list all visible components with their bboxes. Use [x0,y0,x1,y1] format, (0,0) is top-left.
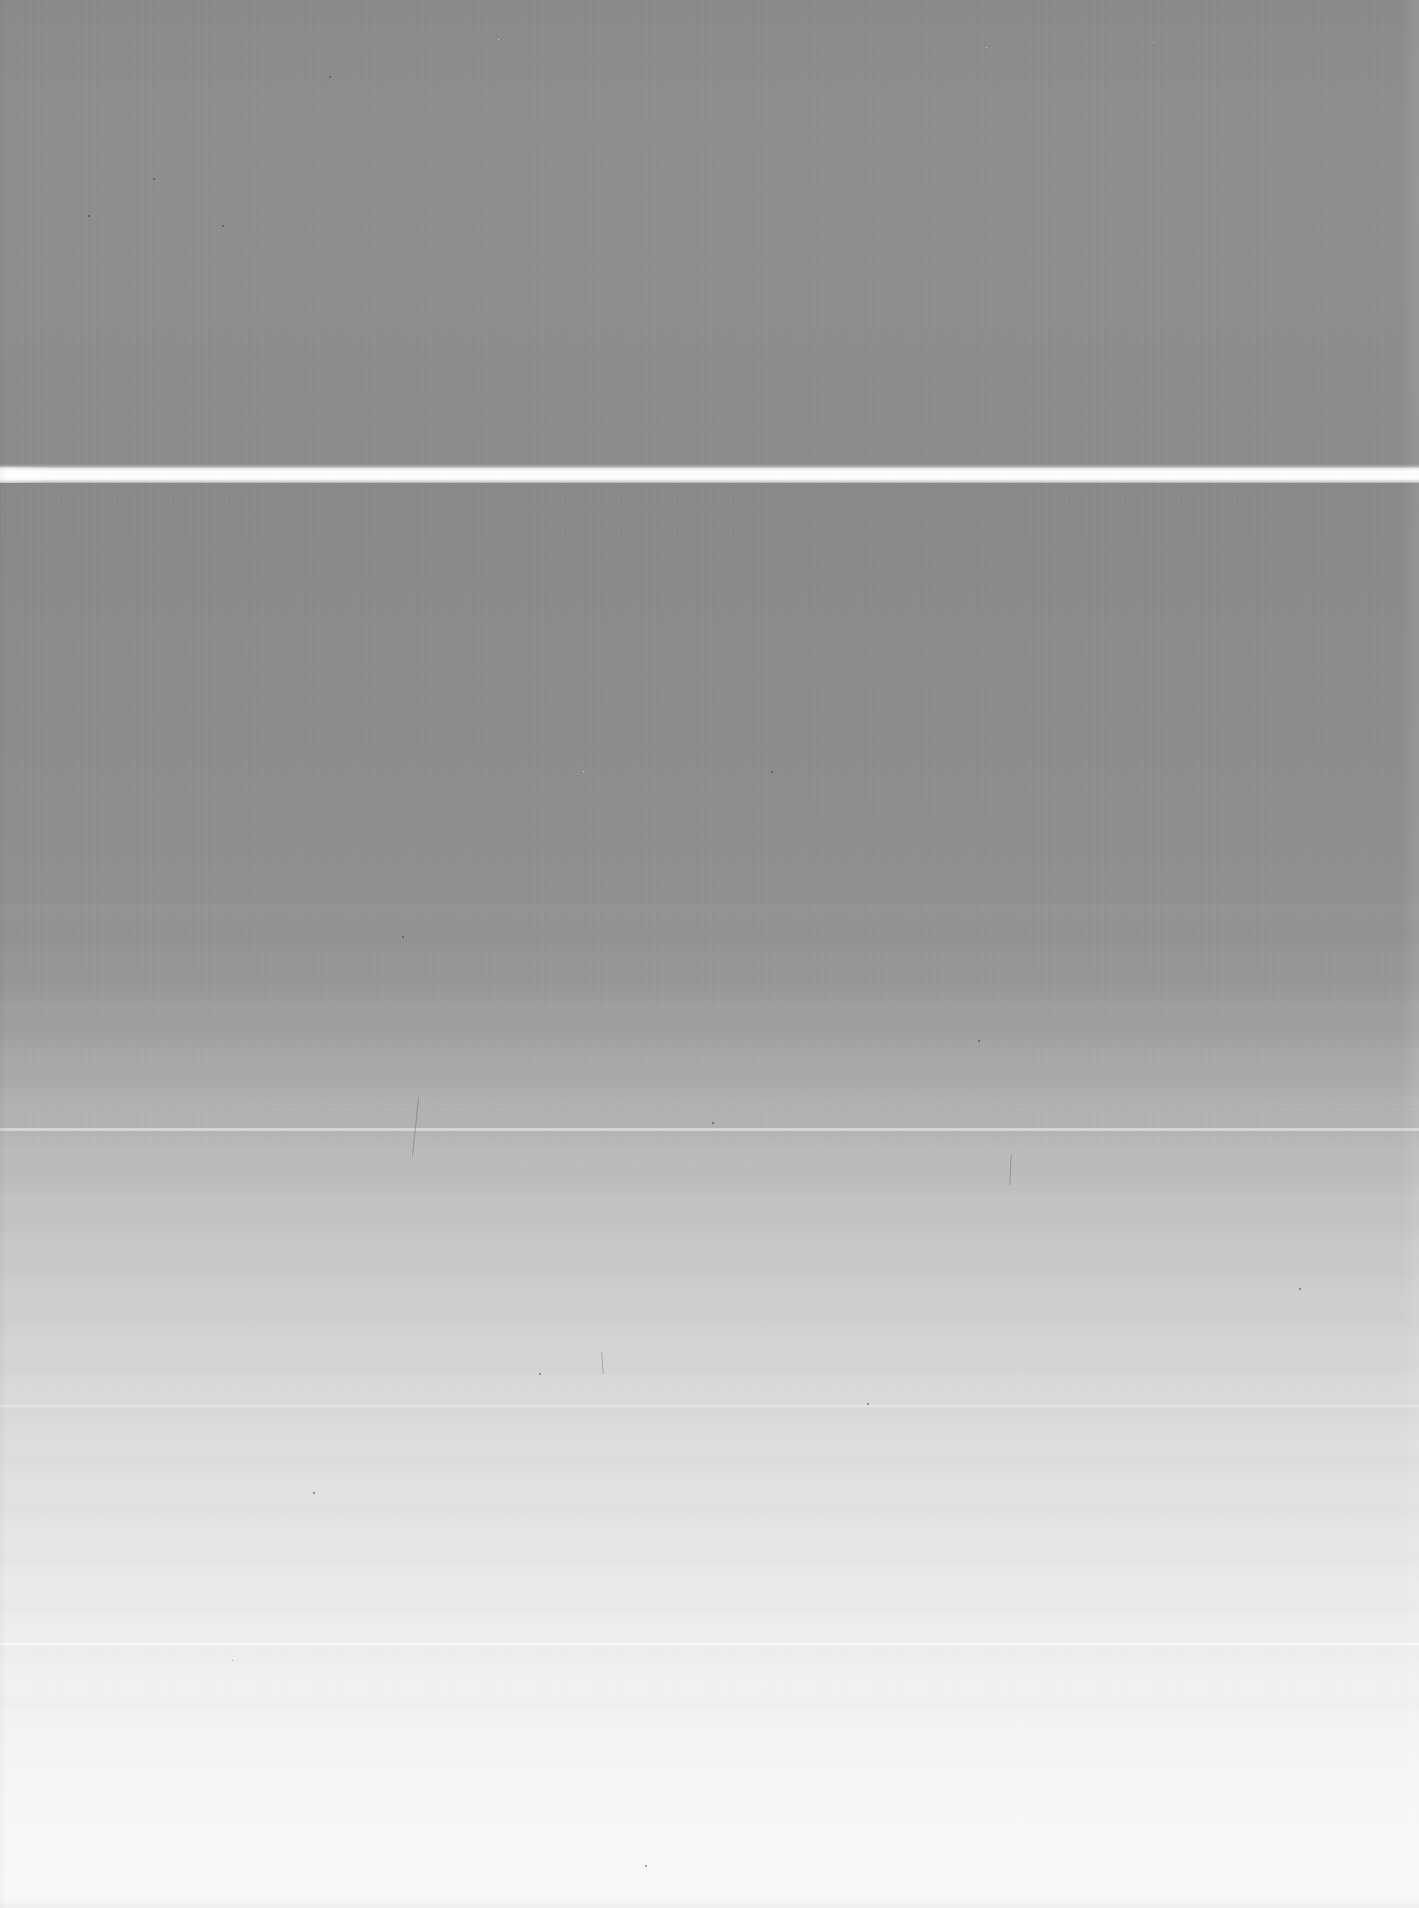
upper-gray-field [0,0,1419,468]
scanned-page-canvas: Blank scanned surface with horizontal wh… [0,0,1419,1908]
lower-gradient-field [0,483,1419,1908]
